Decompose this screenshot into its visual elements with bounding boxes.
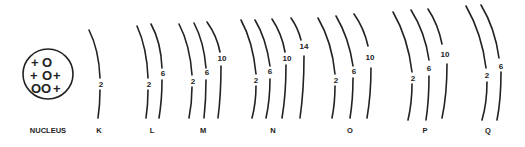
shell-m: 2 6 10 M [179,22,227,135]
arc-o-2-top [318,18,335,74]
arc-n-2-bottom [252,86,256,118]
arc-k-2-top [89,30,100,78]
subshell-n-14: 14 [300,42,309,51]
subshell-q-6: 6 [499,62,504,71]
shell-l: 2 6 L [137,24,166,135]
shell-label-l: L [150,126,155,135]
nucleus-label: NUCLEUS [30,126,66,135]
subshell-p-6: 6 [427,64,432,73]
arc-p-6-top [411,10,429,60]
nucleus-row-3a: O [31,81,41,96]
arc-o-6-bottom [350,78,353,118]
arc-p-2-top [393,12,412,72]
arc-q-2-top [466,6,486,68]
arc-m-10-top [207,22,220,52]
arc-p-10-bottom [442,64,447,118]
subshell-m-2: 2 [191,77,196,86]
shell-k: 2 K [89,30,104,135]
shell-q: 2 6 Q [466,5,504,135]
arc-m-6-bottom [204,80,206,118]
subshell-n-2: 2 [254,76,259,85]
nucleus: + O + O + O O + NUCLEUS [23,49,73,135]
arc-l-6-bottom [159,80,162,118]
arc-q-2-bottom [482,82,487,120]
arc-m-2-top [179,24,192,75]
electron-shell-diagram: + O + O + O O + NUCLEUS 2 K 2 6 L 2 6 10… [0,0,525,147]
subshell-n-6: 6 [268,67,273,76]
arc-o-6-top [336,16,353,66]
arc-o-10-top [354,14,368,46]
nucleus-row-3c: + [53,81,61,96]
subshell-m-10: 10 [218,54,227,63]
arc-l-2-bottom [146,90,148,118]
arc-l-2-top [137,26,148,78]
arc-n-6-bottom [266,79,270,118]
arc-p-2-bottom [408,84,412,120]
subshell-m-6: 6 [205,68,210,77]
arc-m-2-bottom [189,87,192,118]
arc-k-2-bottom [98,90,100,118]
arc-o-2-bottom [332,86,335,118]
subshell-l-2: 2 [147,80,152,89]
subshell-p-2: 2 [411,74,416,83]
subshell-l-6: 6 [161,69,166,78]
arc-q-6-bottom [497,72,501,120]
arc-p-10-top [428,9,442,44]
shell-label-k: K [96,126,102,135]
shell-label-p: P [422,126,427,135]
shell-label-o: O [347,126,353,135]
subshell-q-2: 2 [485,71,490,80]
shell-label-q: Q [485,126,491,135]
arc-o-10-bottom [367,68,371,118]
arc-n-10-bottom [282,65,286,118]
arc-n-14-top [291,18,301,40]
shell-p: 2 6 10 P [393,9,450,135]
arc-n-14-bottom [300,56,304,118]
arc-n-2-top [241,20,256,74]
arc-n-6-top [255,20,270,66]
subshell-n-10: 10 [283,54,292,63]
shell-o: 2 6 10 O [318,14,375,135]
arc-m-6-top [194,23,206,68]
subshell-p-10: 10 [441,50,450,59]
arc-p-6-bottom [426,76,429,120]
subshell-o-2: 2 [334,76,339,85]
arc-m-10-bottom [218,66,221,118]
arc-n-10-top [272,19,285,52]
shell-label-n: N [270,126,275,135]
subshell-o-10: 10 [366,53,375,62]
subshell-k-2: 2 [99,80,104,89]
shell-label-m: M [200,126,206,135]
shell-n: 2 6 10 14 N [241,18,309,135]
arc-l-6-top [151,24,162,68]
nucleus-row-3b: O [41,81,51,96]
subshell-o-6: 6 [352,67,357,76]
